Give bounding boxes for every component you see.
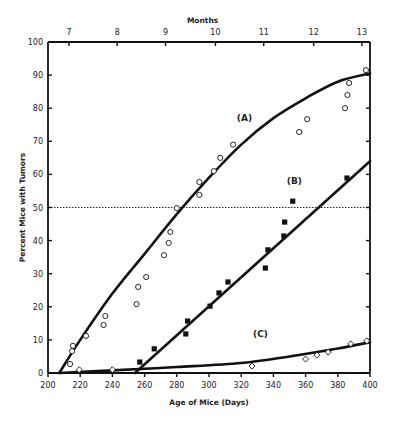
- open-circle-marker: [70, 343, 75, 348]
- open-circle-marker: [103, 313, 108, 318]
- month-tick-label: 12: [309, 28, 319, 37]
- filled-square-marker: [137, 359, 142, 364]
- axes: 2002202402602803003203403603804000102030…: [28, 28, 378, 390]
- x-tick-label: 220: [73, 381, 88, 390]
- y-axis-title: Percent Mice with Tumors: [18, 152, 27, 262]
- open-circle-marker: [342, 106, 347, 111]
- filled-square-marker: [290, 199, 295, 204]
- filled-square-marker: [263, 265, 268, 270]
- x-tick-label: 320: [234, 381, 249, 390]
- x-tick-label: 400: [362, 381, 377, 390]
- filled-square-marker: [281, 233, 286, 238]
- fit-curves: [59, 73, 370, 373]
- open-circle-marker: [174, 206, 179, 211]
- x-tick-label: 240: [105, 381, 120, 390]
- open-circle-marker: [218, 155, 223, 160]
- month-tick-label: 13: [357, 28, 367, 37]
- fit-curve-c: [59, 342, 370, 373]
- open-circle-marker: [346, 80, 351, 85]
- filled-square-marker: [207, 304, 212, 309]
- open-circle-marker: [101, 322, 106, 327]
- open-circle-marker: [231, 142, 236, 147]
- y-tick-label: 40: [33, 237, 43, 246]
- filled-square-marker: [183, 331, 188, 336]
- filled-square-marker: [152, 346, 157, 351]
- y-tick-label: 20: [33, 303, 43, 312]
- open-circle-marker: [197, 192, 202, 197]
- filled-square-marker: [225, 279, 230, 284]
- y-tick-label: 70: [33, 137, 43, 146]
- x-tick-label: 360: [298, 381, 313, 390]
- y-tick-label: 100: [28, 38, 43, 47]
- month-tick-label: 8: [115, 28, 120, 37]
- open-circle-marker: [363, 68, 368, 73]
- open-circle-marker: [197, 179, 202, 184]
- month-tick-label: 7: [66, 28, 71, 37]
- open-circle-marker: [144, 274, 149, 279]
- top-axis-title: Months: [187, 16, 219, 25]
- curve-label-a: (A): [237, 113, 252, 123]
- open-circle-marker: [166, 240, 171, 245]
- month-tick-label: 11: [259, 28, 269, 37]
- month-tick-label: 9: [163, 28, 168, 37]
- y-tick-label: 0: [38, 369, 43, 378]
- x-tick-label: 380: [330, 381, 345, 390]
- x-tick-label: 300: [201, 381, 216, 390]
- fit-curve-a: [59, 73, 370, 373]
- open-circle-marker: [211, 168, 216, 173]
- open-diamond-marker: [249, 363, 255, 369]
- filled-square-marker: [265, 247, 270, 252]
- y-tick-label: 60: [33, 170, 43, 179]
- open-circle-marker: [134, 302, 139, 307]
- y-tick-label: 80: [33, 104, 43, 113]
- x-tick-label: 200: [40, 381, 55, 390]
- curve-labels: (A)(B)(C): [237, 113, 302, 338]
- y-tick-label: 10: [33, 336, 43, 345]
- open-circle-marker: [161, 253, 166, 258]
- tumor-incidence-chart: 2002202402602803003203403603804000102030…: [0, 0, 393, 422]
- y-tick-label: 30: [33, 270, 43, 279]
- filled-square-marker: [282, 219, 287, 224]
- y-tick-label: 50: [33, 204, 43, 213]
- fit-curve-b: [135, 161, 370, 373]
- filled-square-marker: [216, 290, 221, 295]
- open-circle-marker: [136, 284, 141, 289]
- open-diamond-marker: [303, 356, 309, 362]
- open-circle-marker: [67, 361, 72, 366]
- filled-square-marker: [344, 175, 349, 180]
- curve-label-c: (C): [253, 329, 268, 339]
- x-tick-label: 340: [266, 381, 281, 390]
- open-diamond-marker: [109, 367, 115, 373]
- y-tick-label: 90: [33, 71, 43, 80]
- open-circle-marker: [83, 333, 88, 338]
- x-axis-title: Age of Mice (Days): [169, 398, 248, 407]
- open-circle-marker: [168, 229, 173, 234]
- chart: 2002202402602803003203403603804000102030…: [0, 0, 393, 422]
- x-tick-label: 280: [169, 381, 184, 390]
- curve-label-b: (B): [287, 176, 302, 186]
- open-circle-marker: [345, 92, 350, 97]
- month-tick-label: 10: [210, 28, 220, 37]
- data-points: [67, 68, 369, 373]
- x-tick-label: 260: [137, 381, 152, 390]
- filled-square-marker: [185, 318, 190, 323]
- open-circle-marker: [70, 349, 75, 354]
- open-circle-marker: [305, 117, 310, 122]
- open-circle-marker: [297, 129, 302, 134]
